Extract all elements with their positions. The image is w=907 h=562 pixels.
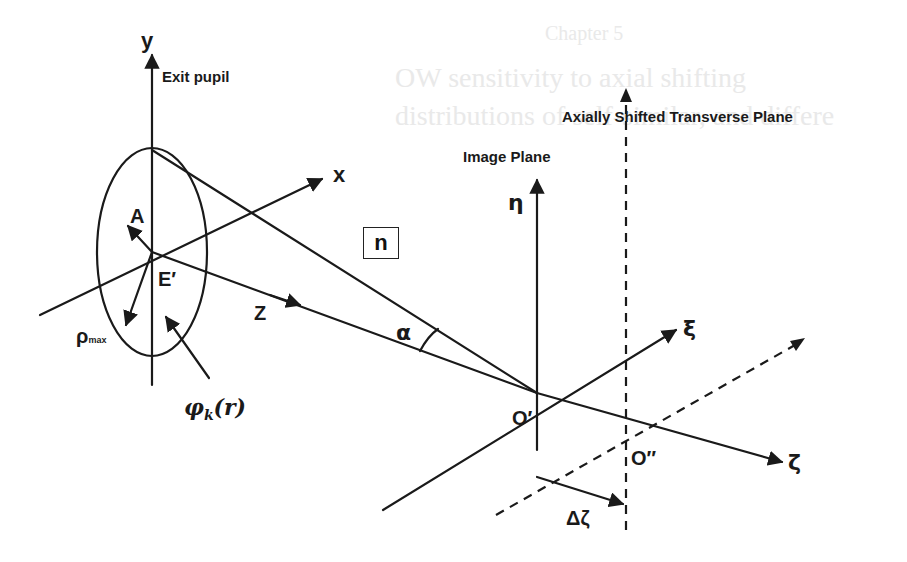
x-axis-label: x bbox=[333, 162, 345, 188]
rho-max-label: ρmax bbox=[76, 325, 106, 348]
amplitude-label: A bbox=[130, 205, 144, 228]
optical-axis bbox=[152, 252, 537, 393]
x-axis bbox=[40, 179, 322, 315]
amplitude-arrow bbox=[128, 226, 152, 252]
delta-zeta-label: Δζ bbox=[566, 507, 590, 530]
rho-max-arrow bbox=[126, 252, 152, 325]
shifted-plane-horizontal bbox=[496, 345, 795, 515]
shifted-origin-label: O″ bbox=[631, 447, 656, 470]
center-label: E′ bbox=[158, 268, 176, 291]
alpha-arc bbox=[420, 329, 438, 351]
phase-label: φk(r) bbox=[184, 394, 246, 423]
phase-argument: (r) bbox=[214, 394, 246, 420]
y-axis-label: y bbox=[141, 28, 153, 54]
shifted-plane-label: Axially Shifted Transverse Plane bbox=[562, 108, 793, 125]
xi-axis-label: ξ bbox=[683, 316, 696, 341]
alpha-label: α bbox=[396, 320, 411, 345]
exit-pupil-label: Exit pupil bbox=[162, 68, 230, 85]
rho-subscript: max bbox=[88, 335, 106, 345]
zeta-axis-label: ζ bbox=[788, 450, 801, 475]
image-plane-label: Image Plane bbox=[463, 148, 551, 165]
z-axis-label: Z bbox=[254, 302, 266, 325]
shifted-horizontal-arrowhead bbox=[790, 338, 805, 351]
image-origin-label: O′ bbox=[512, 407, 532, 430]
shifted-plane-arrowhead bbox=[620, 88, 632, 102]
rho-symbol: ρ bbox=[76, 325, 88, 347]
phase-subscript: k bbox=[204, 407, 214, 423]
phase-symbol: φ bbox=[184, 394, 204, 420]
medium-index-box: n bbox=[363, 227, 399, 259]
medium-index-label: n bbox=[374, 230, 387, 256]
z-arrow-mark bbox=[270, 295, 300, 305]
delta-zeta-arrow bbox=[537, 477, 623, 504]
eta-axis-label: η bbox=[508, 190, 524, 215]
zeta-axis bbox=[537, 393, 782, 462]
optics-diagram bbox=[0, 0, 907, 562]
